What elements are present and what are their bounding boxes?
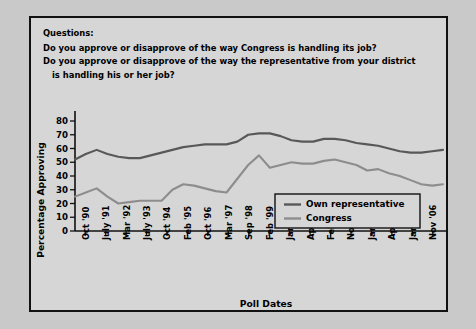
x-tick-label: July '91 <box>101 205 111 241</box>
x-tick-label: July '93 <box>142 205 152 241</box>
x-tick-label: Feb '99 <box>265 206 275 240</box>
x-tick-label: Oct '90 <box>81 207 91 240</box>
x-tick-label: Sep '98 <box>244 205 254 240</box>
x-tick-label: Mar '92 <box>122 205 132 240</box>
y-axis-title: Percentage Approving <box>35 142 46 258</box>
y-tick-label: 10 <box>56 212 68 222</box>
y-tick-label: 30 <box>56 185 68 195</box>
y-tick-label: 50 <box>56 157 68 167</box>
y-tick-label: 60 <box>56 144 68 154</box>
x-axis-title: Poll Dates <box>240 298 293 309</box>
plot-area: 01020304050607080 Oct '90July '91Mar '92… <box>31 18 450 314</box>
y-tick-label: 40 <box>56 171 68 181</box>
y-tick-label: 80 <box>56 116 68 126</box>
series-group <box>75 133 443 203</box>
x-tick-label: Oct '96 <box>203 207 213 240</box>
legend-label: Congress <box>306 213 352 223</box>
x-tick-label: Oct '94 <box>162 207 172 240</box>
chart-legend: Own representativeCongress <box>275 194 420 228</box>
y-tick-label: 20 <box>56 199 68 209</box>
y-tick-label: 0 <box>62 226 68 236</box>
chart-figure: Questions: Do you approve or disapprove … <box>29 16 448 312</box>
y-axis: 01020304050607080 <box>56 111 75 236</box>
x-tick-label: Feb '95 <box>183 206 193 240</box>
legend-label: Own representative <box>306 199 404 209</box>
y-tick-label: 70 <box>56 130 68 140</box>
x-tick-label: Nov '06 <box>428 204 438 240</box>
x-tick-label: Mar '97 <box>224 205 234 240</box>
line-chart: 01020304050607080 Oct '90July '91Mar '92… <box>31 18 450 314</box>
